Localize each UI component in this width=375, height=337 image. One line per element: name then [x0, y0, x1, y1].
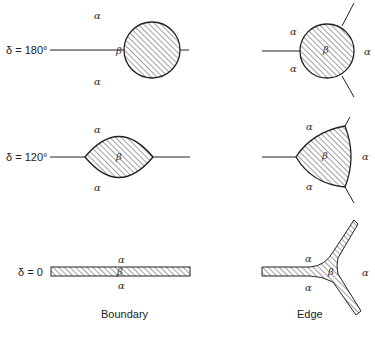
diagram-canvas: α α β δ = 180° α α α β α α β δ = 120° α …: [0, 0, 375, 337]
beta-label: β: [115, 45, 122, 56]
edge-caption: Edge: [297, 308, 323, 320]
alpha-label: α: [306, 121, 313, 132]
delta-label: δ = 0: [18, 266, 43, 278]
beta-label: β: [327, 266, 334, 277]
alpha-label: α: [362, 267, 369, 278]
alpha-label: α: [94, 182, 101, 193]
alpha-label: α: [290, 63, 297, 74]
delta-label: δ = 120°: [6, 151, 47, 163]
alpha-label: α: [305, 282, 312, 293]
edge-0: α α α β Edge: [262, 220, 369, 320]
alpha-label: α: [364, 46, 371, 57]
edge-180: α α α β: [262, 3, 371, 97]
alpha-label: α: [94, 76, 101, 87]
alpha-label: α: [118, 254, 125, 265]
alpha-label: α: [118, 280, 125, 291]
alpha-label: α: [306, 181, 313, 192]
alpha-label: α: [290, 26, 297, 37]
boundary-120: α α β δ = 120°: [6, 124, 190, 193]
delta-label: δ = 180°: [6, 44, 47, 56]
boundary-0: α α β δ = 0 Boundary: [18, 254, 190, 320]
edge-120: α α α β: [262, 117, 369, 203]
boundary-caption: Boundary: [101, 308, 149, 320]
alpha-label: α: [94, 124, 101, 135]
alpha-label: α: [362, 151, 369, 162]
beta-label: β: [115, 151, 122, 162]
beta-label: β: [322, 44, 329, 55]
beta-label: β: [116, 266, 123, 277]
beta-label: β: [321, 150, 328, 161]
boundary-180: α α β δ = 180°: [6, 10, 189, 87]
alpha-label: α: [305, 253, 312, 264]
alpha-label: α: [94, 10, 101, 21]
